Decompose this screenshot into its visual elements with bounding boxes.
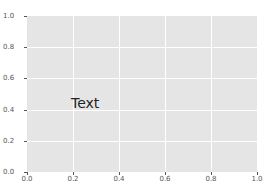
gridline-y-0.4 [27, 110, 257, 111]
y-tick-mark [24, 141, 27, 142]
y-tick-label: 0.2 [3, 137, 24, 145]
gridline-x-0.2 [73, 16, 74, 172]
x-tick-label: 0.2 [67, 175, 78, 183]
gridline-y-0.8 [27, 47, 257, 48]
y-tick-label: 1.0 [3, 12, 24, 20]
gridline-y-0.2 [27, 141, 257, 142]
y-tick-mark [24, 78, 27, 79]
text-annotation: Text [71, 96, 99, 110]
y-tick-label: 0.8 [3, 43, 24, 51]
y-tick-mark [24, 110, 27, 111]
gridline-y-0.6 [27, 78, 257, 79]
y-tick-label: 0.4 [3, 106, 24, 114]
y-tick-mark [24, 47, 27, 48]
x-tick-label: 1.0 [251, 175, 262, 183]
x-tick-label: 0.8 [205, 175, 216, 183]
gridline-x-0.6 [165, 16, 166, 172]
gridline-x-0.4 [119, 16, 120, 172]
plot-area [27, 16, 257, 172]
x-tick-label: 0.6 [159, 175, 170, 183]
y-tick-label: 0.6 [3, 74, 24, 82]
gridline-x-0.8 [211, 16, 212, 172]
y-tick-mark [24, 16, 27, 17]
x-tick-label: 0.0 [21, 175, 32, 183]
x-tick-label: 0.4 [113, 175, 124, 183]
